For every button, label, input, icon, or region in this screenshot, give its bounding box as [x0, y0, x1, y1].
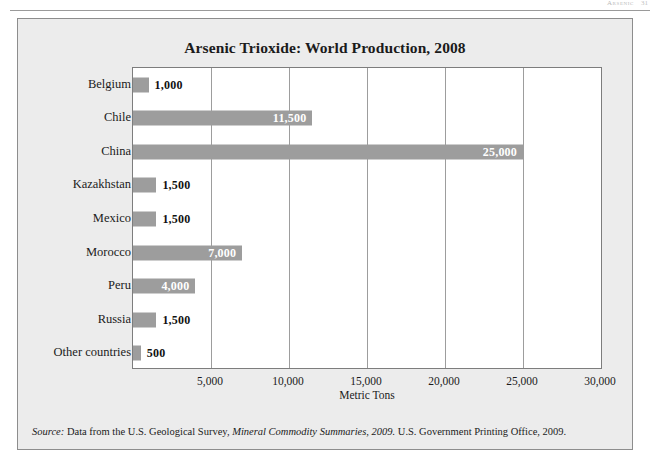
source-note: Source: Data from the U.S. Geological Su… — [32, 425, 618, 438]
category-label: Other countries — [18, 345, 131, 360]
x-axis-title: Metric Tons — [132, 389, 602, 401]
bar — [133, 178, 156, 193]
x-tick-label: 30,000 — [584, 375, 616, 387]
bar-value-label: 1,500 — [162, 178, 190, 193]
bar-value-label: 4,000 — [161, 279, 189, 294]
x-tick-label: 15,000 — [350, 375, 382, 387]
source-text-first: Data from the U.S. Geological Survey, — [67, 426, 230, 437]
category-label: China — [18, 143, 131, 158]
category-label: Russia — [18, 311, 131, 326]
chart-title: Arsenic Trioxide: World Production, 2008 — [18, 39, 632, 57]
x-tick-label: 10,000 — [272, 375, 304, 387]
figure-container: Arsenic Trioxide: World Production, 2008… — [17, 18, 633, 450]
bar-value-label: 1,500 — [162, 312, 190, 327]
bar-value-label: 1,000 — [155, 77, 183, 92]
x-tick-label: 20,000 — [428, 375, 460, 387]
bar — [133, 346, 141, 361]
bar — [133, 212, 156, 227]
gridline-25000 — [523, 68, 524, 368]
x-tick-label: 5,000 — [197, 375, 223, 387]
category-label: Belgium — [18, 76, 131, 91]
bar-value-label: 500 — [147, 346, 166, 361]
page-running-head: Arsenic 31 — [0, 0, 652, 14]
bar-value-label: 7,000 — [208, 245, 236, 260]
page-number: 31 — [641, 0, 648, 7]
x-axis-ticks: 5,00010,00015,00020,00025,00030,000 — [132, 370, 602, 390]
gridline-15000 — [367, 68, 368, 368]
bar — [133, 144, 523, 159]
bar-value-label: 1,500 — [162, 212, 190, 227]
source-publication: Mineral Commodity Summaries, 2009. — [232, 426, 395, 437]
category-axis: BelgiumChileChinaKazakhstanMexicoMorocco… — [18, 67, 131, 369]
category-label: Peru — [18, 278, 131, 293]
bar — [133, 312, 156, 327]
bar-value-label: 25,000 — [483, 144, 517, 159]
category-label: Morocco — [18, 244, 131, 259]
category-label: Chile — [18, 110, 131, 125]
source-label: Source: — [32, 426, 64, 437]
bar — [133, 77, 149, 92]
x-tick-label: 25,000 — [506, 375, 538, 387]
header-rule — [10, 10, 650, 11]
category-label: Kazakhstan — [18, 177, 131, 192]
gridline-20000 — [445, 68, 446, 368]
plot-area: 1,00011,50025,0001,5001,5007,0004,0001,5… — [132, 67, 602, 369]
source-text-second: U.S. Government Printing Office, 2009. — [398, 426, 566, 437]
bar-value-label: 11,500 — [273, 111, 307, 126]
category-label: Mexico — [18, 211, 131, 226]
running-head-text: Arsenic — [607, 0, 634, 7]
plot-wrapper: BelgiumChileChinaKazakhstanMexicoMorocco… — [18, 67, 634, 397]
